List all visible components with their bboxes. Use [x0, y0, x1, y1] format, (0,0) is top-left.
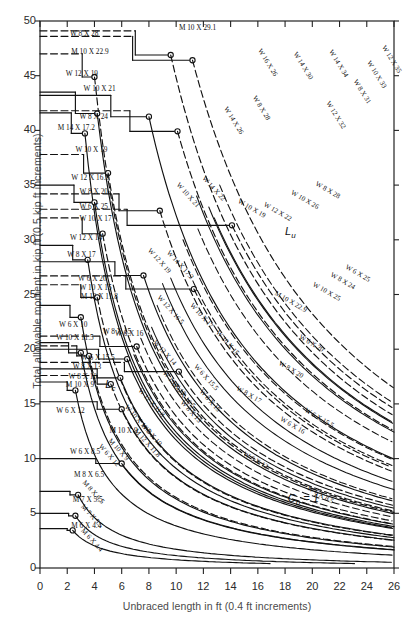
series-label: W 12 X 16.5	[156, 294, 186, 327]
series-label: W 6 X 12	[242, 450, 270, 471]
series-label: M 8 X 6.5	[74, 470, 104, 479]
series-label: W 10 X 19	[236, 197, 267, 220]
series-label: W 8 X 17	[235, 384, 263, 405]
series-label: W 16 X 26	[256, 47, 279, 78]
series-label: W 8 X 31	[351, 78, 373, 106]
series-curve	[194, 289, 391, 467]
series-label: W 6 X 10	[59, 320, 88, 329]
series-label: W 12 X 19	[66, 69, 98, 78]
series-label: W 10 X 26	[290, 189, 321, 212]
series-label: W 8 X 20	[79, 187, 108, 196]
series-label: W 14 X 22	[201, 175, 228, 204]
series-label: W 10 X 11.5	[56, 333, 94, 342]
series-label: W 10 X 33	[365, 59, 388, 90]
series-label: W 14 X 30	[292, 51, 315, 82]
series-label: M 14 X 17.2	[58, 123, 96, 132]
series-label: W 8 X 10	[69, 372, 98, 381]
beam-design-chart: Total allowable moment in kip ft (0.5 ki…	[0, 0, 417, 624]
series-label: W 10 X 15	[79, 283, 111, 292]
series-label: W 14 X 34	[327, 48, 350, 79]
series-label: W 6 X 20	[78, 274, 107, 283]
lu-annotation: Lu	[285, 225, 296, 240]
series-label: W 8 X 13	[73, 362, 102, 371]
series-label: W 10 X 25	[311, 281, 342, 304]
series-label: M 12 X 11.8	[81, 292, 118, 301]
series-label: W 6 X 20	[298, 333, 326, 354]
series-label: W 14 X 26	[222, 105, 245, 136]
series-label: M 10 X 22.9	[71, 47, 109, 56]
series-curve	[152, 327, 394, 508]
series-label: W 8 X 15	[103, 327, 132, 336]
series-label: W 12 X 32	[324, 100, 347, 131]
series-label: W 6 X 15.5	[303, 406, 336, 429]
series-label: W 12 X 14	[70, 233, 102, 242]
series-label: W 8 X 24	[79, 112, 108, 121]
series-label: W 6 X 16	[279, 415, 307, 436]
series-label: M 10 X 29.1	[179, 23, 217, 32]
series-label: W 8 X 15	[198, 388, 223, 414]
series-label: W 6 X 15.5	[81, 353, 115, 362]
series-label: W 8 X 28	[70, 29, 99, 38]
series-label: W 10 X 21	[84, 84, 116, 93]
series-label: W 10 X 17	[188, 301, 215, 330]
series-label: W 10 X 17	[79, 214, 111, 223]
series-label: W 8 X 28	[314, 180, 342, 201]
series-label: W 6 X 25	[79, 202, 108, 211]
series-label: W 12 X 16.5	[71, 173, 109, 182]
series-label: W 10 X 12	[161, 369, 188, 398]
cb-annotation: Cb = 1	[288, 492, 319, 507]
lc-annotation: Lc	[105, 378, 115, 393]
series-label: W 8 X 28	[251, 94, 273, 122]
series-label: M 10 X 9	[66, 380, 95, 389]
plot-area: W 8 X 28M 10 X 22.9M 10 X 29.1W 12 X 19W…	[0, 0, 417, 624]
series-curve	[160, 211, 391, 471]
series-label: W 10 X 21	[175, 181, 202, 210]
series-label: W 10 X 19	[75, 145, 107, 154]
series-label: W 6 X 12	[56, 406, 85, 415]
series-label: W 8 X 17	[67, 250, 96, 259]
series-label: W 12 X 35	[380, 44, 403, 75]
series-label: W 6 X 8.5	[70, 447, 101, 456]
